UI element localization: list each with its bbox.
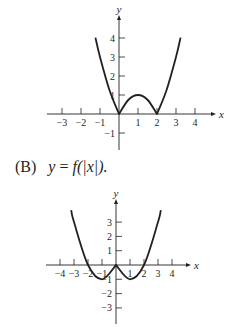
- x-tick-label: 4: [170, 268, 175, 279]
- x-tick-label: 1: [128, 268, 133, 279]
- x-tick-label: −4: [55, 268, 66, 279]
- x-axis: x−4−3−2−11234: [46, 259, 199, 280]
- y-tick-label: −3: [101, 302, 112, 313]
- graph-bottom: x−4−3−2−11234y−3−2−1123: [0, 0, 228, 333]
- x-axis-label: x: [193, 259, 199, 271]
- y-axis-arrow-icon: [114, 199, 118, 204]
- x-axis-arrow-icon: [186, 263, 191, 267]
- x-tick-label: −2: [83, 268, 94, 279]
- y-axis-label: y: [113, 187, 119, 199]
- x-tick-label: −3: [69, 268, 80, 279]
- x-tick-label: 3: [156, 268, 161, 279]
- y-tick-label: 2: [107, 231, 112, 242]
- y-tick-label: −2: [101, 288, 112, 299]
- y-axis: y−3−2−1123: [101, 187, 122, 324]
- y-tick-label: 3: [107, 217, 112, 228]
- y-tick-label: 1: [107, 245, 112, 256]
